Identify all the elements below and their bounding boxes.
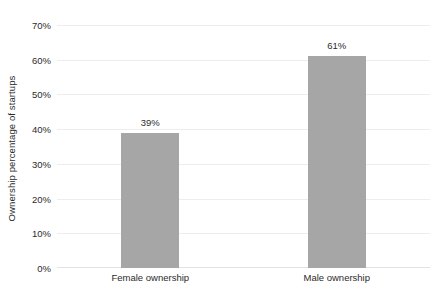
y-tick-label-10: 10% [5, 228, 51, 239]
gridline-20 [57, 199, 430, 200]
gridline-60 [57, 60, 430, 61]
y-tick-label-20: 20% [5, 193, 51, 204]
gridline-0 [57, 267, 430, 268]
gridline-30 [57, 164, 430, 165]
gridline-10 [57, 233, 430, 234]
bar-chart: Ownership percentage of startups 70% 60%… [0, 0, 438, 297]
x-axis-tick-labels: Female ownership Male ownership [57, 272, 430, 292]
y-axis-tick-labels: 70% 60% 50% 40% 30% 20% 10% 0% [0, 25, 51, 268]
bar-male-ownership[interactable] [308, 56, 366, 268]
gridline-40 [57, 129, 430, 130]
y-tick-label-0: 0% [5, 263, 51, 274]
gridline-50 [57, 94, 430, 95]
plot-area: 39% 61% [57, 25, 430, 268]
y-tick-label-60: 60% [5, 54, 51, 65]
y-tick-label-30: 30% [5, 158, 51, 169]
x-tick-label-male-ownership: Male ownership [267, 272, 407, 283]
x-tick-label-female-ownership: Female ownership [80, 272, 220, 283]
bar-value-label-male: 61% [297, 40, 377, 51]
y-tick-label-70: 70% [5, 20, 51, 31]
gridline-70 [57, 25, 430, 26]
bar-value-label-female: 39% [110, 117, 190, 128]
y-tick-label-40: 40% [5, 124, 51, 135]
y-tick-label-50: 50% [5, 89, 51, 100]
bar-female-ownership[interactable] [121, 133, 179, 268]
